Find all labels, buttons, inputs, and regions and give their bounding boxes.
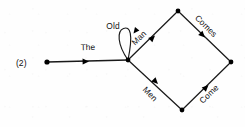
- top-node: [176, 9, 181, 14]
- edge-label-comes: Comes: [193, 13, 219, 39]
- start-node: [44, 59, 49, 64]
- edge-line-old-selfloop: [119, 28, 131, 60]
- arrowhead-men: [151, 77, 160, 86]
- edge-label-group: The Old Man Comes Men Come: [80, 13, 220, 106]
- edge-label-old: Old: [106, 21, 120, 31]
- branch-node: [126, 58, 131, 63]
- edge-line-men: [128, 60, 182, 110]
- arrowhead-man: [148, 33, 157, 42]
- edge-label-the: The: [80, 42, 95, 52]
- arrowhead-the: [83, 58, 90, 64]
- edge-label-man: Man: [129, 28, 148, 47]
- lattice-diagram: The Old Man Comes Men Come (2): [0, 0, 245, 127]
- end-node: [229, 60, 234, 65]
- figure-container: The Old Man Comes Men Come (2): [0, 0, 245, 127]
- bottom-node: [180, 108, 185, 113]
- edge-label-come: Come: [197, 82, 220, 105]
- figure-number-label: (2): [16, 58, 27, 68]
